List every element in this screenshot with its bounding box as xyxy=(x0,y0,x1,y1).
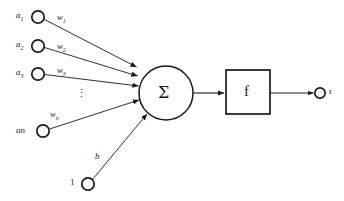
weight-label-w1-sub: 1 xyxy=(63,18,66,24)
weight-label-w3-sub: 3 xyxy=(63,71,66,77)
output-node xyxy=(315,88,325,98)
activation-function-symbol: f xyxy=(244,84,249,99)
input-label-a1-sub: 1 xyxy=(21,16,24,22)
bias-input-node xyxy=(82,178,94,190)
weight-label-w1: w1 xyxy=(57,13,66,24)
output-label: t xyxy=(329,87,332,96)
weight-label-w2: w2 xyxy=(57,42,66,53)
neuron-diagram-canvas: a1 a2 a3 an w1 w2 w3 wn ⋮ b 1 Σ f t xyxy=(0,0,344,201)
input-label-a3: a3 xyxy=(16,68,24,79)
input-node-a2 xyxy=(32,40,44,52)
input-label-an: an xyxy=(16,126,25,137)
weight-label-wn-sub: n xyxy=(56,115,59,121)
weight-label-w3: w3 xyxy=(57,66,66,77)
input-label-a1: a1 xyxy=(16,11,24,22)
diagram-vector-layer xyxy=(0,0,344,201)
input-label-a2: a2 xyxy=(16,40,24,51)
weight-label-wn: wn xyxy=(50,110,59,121)
input-ellipsis: ⋮ xyxy=(76,88,87,99)
bias-constant-label: 1 xyxy=(70,178,75,187)
input-node-a1 xyxy=(32,11,44,23)
connection-an xyxy=(50,100,140,129)
weight-label-w2-sub: 2 xyxy=(63,47,66,53)
input-node-an xyxy=(37,125,49,137)
summation-symbol: Σ xyxy=(158,85,169,101)
input-label-a3-sub: 3 xyxy=(21,73,24,79)
input-label-an-base: an xyxy=(16,125,25,135)
bias-weight-label: b xyxy=(95,152,100,161)
connection-bias xyxy=(93,114,148,180)
input-label-a2-sub: 2 xyxy=(21,45,24,51)
input-node-a3 xyxy=(32,68,44,80)
